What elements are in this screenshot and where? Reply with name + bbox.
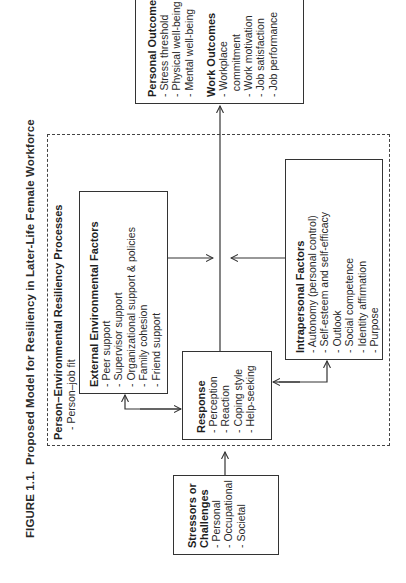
figure-label: FIGURE 1.1. [24, 471, 36, 538]
external-heading: External Environmental Factors [88, 221, 100, 387]
outcomes-box: Personal Outcomes Stress threshold Physi… [135, 0, 304, 104]
work-outcome-item: Workplace [217, 0, 229, 97]
external-item: Friend support [150, 221, 162, 387]
stressors-heading-line2: Challenges [198, 480, 210, 548]
figure-title-text: Proposed Model for Resiliency in Later-L… [24, 119, 36, 465]
stressors-heading-line1: Stressors or [186, 480, 198, 548]
figure-title: FIGURE 1.1.Proposed Model for Resiliency… [24, 119, 36, 538]
intrapersonal-item: Self-esteem and self-efficacy [318, 212, 330, 353]
external-item: Supervisor support [112, 221, 124, 387]
stressors-item: Personal [210, 480, 222, 548]
personal-outcomes-heading: Personal Outcomes [146, 0, 158, 97]
external-item: Organizational support & policies [125, 221, 137, 387]
intrapersonal-heading: Intrapersonal Factors [294, 212, 306, 353]
work-outcome-item: commitment [230, 0, 242, 97]
response-box: Response Perception Reaction Coping styl… [182, 351, 272, 440]
personal-outcome-item: Physical well-being [170, 0, 182, 97]
intrapersonal-item: Identity affirmation [356, 212, 368, 353]
external-item: Family cohesion [137, 221, 149, 387]
external-item: Peer support [100, 221, 112, 387]
diagram-canvas: FIGURE 1.1.Proposed Model for Resiliency… [0, 0, 406, 583]
intrapersonal-factors-box: Intrapersonal Factors Autonomy (personal… [285, 159, 383, 360]
intrapersonal-item: Outlook [331, 212, 343, 353]
stressors-item: Occupational [222, 480, 234, 548]
intrapersonal-item: Social competence [343, 212, 355, 353]
external-factors-box: External Environmental Factors Peer supp… [79, 191, 168, 394]
processes-header: Person–Environmental Resiliency Processe… [52, 205, 77, 440]
intrapersonal-item: Autonomy (personal control) [306, 212, 318, 353]
work-outcome-item: Work motivation [242, 0, 254, 97]
processes-item: Person–job fit [65, 205, 77, 430]
work-outcome-item: Job performance [267, 0, 279, 97]
personal-outcome-item: Mental well-being [183, 0, 195, 97]
response-heading: Response [195, 365, 207, 433]
work-outcome-item: Job satisfaction [254, 0, 266, 97]
personal-outcome-item: Stress threshold [158, 0, 170, 97]
work-outcomes-heading: Work Outcomes [205, 0, 217, 97]
intrapersonal-item: Purpose [368, 212, 380, 353]
response-item: Coping style [232, 365, 244, 433]
stressors-item: Societal [235, 480, 247, 548]
stressors-box: Stressors or Challenges Personal Occupat… [173, 475, 279, 555]
response-item: Reaction [219, 365, 231, 433]
processes-heading: Person–Environmental Resiliency Processe… [52, 205, 64, 440]
response-item: Perception [207, 365, 219, 433]
response-item: Help-seeking [244, 365, 256, 433]
